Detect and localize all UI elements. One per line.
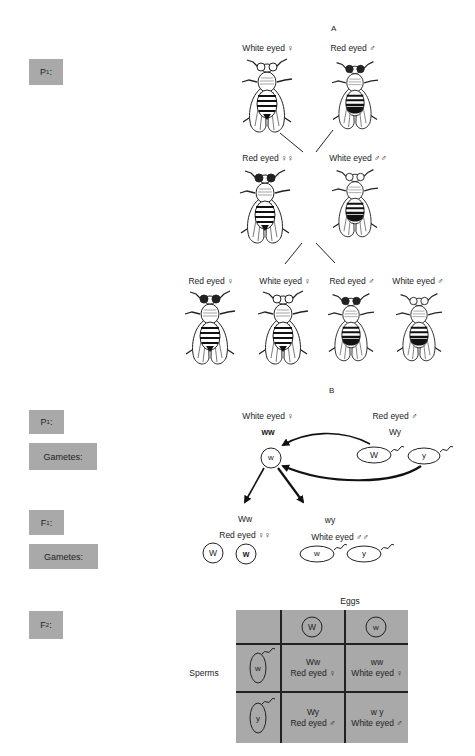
- f1-sperm-allele-1: w: [307, 549, 327, 558]
- p1-male-genotype: Wy: [370, 427, 420, 437]
- p1-female-caption: White eyed ♀: [228, 411, 308, 421]
- cell-phenotype: Red eyed ♀: [290, 668, 335, 679]
- f1-egg-allele-1: W: [203, 548, 223, 558]
- cell-genotype: Wy: [307, 707, 319, 718]
- gametes-label-2: Gametes:: [29, 544, 98, 569]
- eggs-label: Eggs: [335, 596, 365, 606]
- fly-f2-red-male: [328, 294, 374, 361]
- f1-female-genotype: Ww: [225, 514, 265, 524]
- section-b-title: B: [329, 386, 334, 395]
- colon: :: [50, 518, 53, 528]
- punnett-cell-ww-female: Ww Red eyed ♀: [282, 645, 344, 691]
- fly-f1-red-female: [240, 170, 290, 243]
- punnett-cell-wy-red-male: Wy Red eyed ♂: [282, 693, 344, 743]
- cell-genotype: Ww: [306, 657, 320, 668]
- fly-f2-white-male: [396, 294, 442, 361]
- cell-genotype: w y: [371, 707, 384, 718]
- p1-sperm-allele-2: y: [414, 451, 434, 460]
- punnett-cell-ww-white-female: ww White eyed ♀: [346, 645, 408, 691]
- fly-f2-red-female: [185, 291, 235, 364]
- fly-f2-white-female: [258, 291, 308, 364]
- p1-male-caption: Red eyed ♂: [360, 411, 430, 421]
- fly-p1-red-male: [332, 62, 378, 129]
- p1-label-b: P1:: [29, 410, 64, 434]
- f1-label-b: F1:: [29, 510, 64, 535]
- f2-label: F2:: [29, 611, 63, 639]
- fly-cross-illustration: [0, 0, 475, 400]
- p1-female-genotype: ww: [243, 427, 293, 437]
- f1-sperm-allele-2: y: [354, 549, 374, 558]
- gametes-label-1: Gametes:: [29, 443, 97, 470]
- cell-phenotype: White eyed ♀: [351, 668, 402, 679]
- colon: :: [49, 620, 52, 630]
- cell-phenotype: Red eyed ♂: [290, 718, 335, 729]
- p1-sperm-allele-1: W: [364, 450, 384, 460]
- f1-male-caption: White eyed ♂♂: [305, 532, 375, 542]
- sperm-allele-1: w: [248, 662, 268, 674]
- f1-egg-allele-2: w: [236, 549, 256, 559]
- cell-genotype: ww: [371, 657, 383, 668]
- punnett-square: W w w y Ww Red eyed ♀ ww White eyed ♀ Wy…: [236, 610, 408, 743]
- fly-f1-white-male: [332, 170, 378, 237]
- sperm-allele-2: y: [248, 712, 268, 724]
- f1-male-genotype: wy: [310, 515, 350, 525]
- sperms-label: Sperms: [182, 668, 226, 678]
- colon: :: [50, 417, 53, 427]
- fly-p1-white-female: [242, 59, 292, 132]
- egg-allele-1: W: [302, 621, 322, 633]
- egg-allele-2: w: [366, 621, 386, 633]
- p1-egg-allele: w: [261, 453, 281, 462]
- punnett-cell-wy-white-male: w y White eyed ♂: [346, 693, 408, 743]
- cell-phenotype: White eyed ♂: [351, 718, 402, 729]
- f1-female-caption: Red eyed ♀♀: [215, 530, 275, 540]
